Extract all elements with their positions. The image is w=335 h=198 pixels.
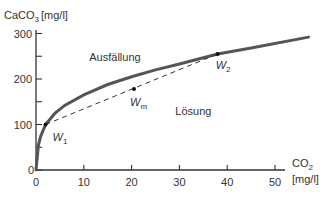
x-tick-label: 50	[269, 176, 281, 188]
point-label-w1: W1	[53, 131, 68, 146]
region-label: Lösung	[175, 105, 211, 117]
x-tick-label: 20	[125, 176, 137, 188]
region-label: Ausfällung	[89, 51, 140, 63]
x-tick-label: 30	[173, 176, 185, 188]
y-tick-label: 300	[14, 28, 32, 40]
chart: 01020304050 0100200300 CaCO3[mg/l] CO2 […	[0, 0, 335, 198]
y-tick-label: 200	[14, 73, 32, 85]
equilibrium-curve	[36, 37, 309, 170]
x-axis-label: CO2	[292, 157, 314, 172]
point-label-w2: W2	[216, 59, 231, 74]
data-points: W1WmW2	[44, 52, 231, 146]
x-tick-label: 40	[221, 176, 233, 188]
x-tick-label: 10	[78, 176, 90, 188]
point-w1	[44, 123, 48, 127]
y-axis-label: CaCO3[mg/l]	[4, 9, 68, 24]
x-axis-unit: [mg/l]	[292, 173, 319, 185]
point-label-wm: Wm	[130, 96, 147, 111]
point-wm	[132, 87, 136, 91]
y-tick-label: 100	[14, 119, 32, 131]
y-tick-label: 0	[28, 164, 34, 176]
x-ticks: 01020304050	[33, 165, 281, 188]
x-tick-label: 0	[33, 176, 39, 188]
point-w2	[216, 52, 220, 56]
